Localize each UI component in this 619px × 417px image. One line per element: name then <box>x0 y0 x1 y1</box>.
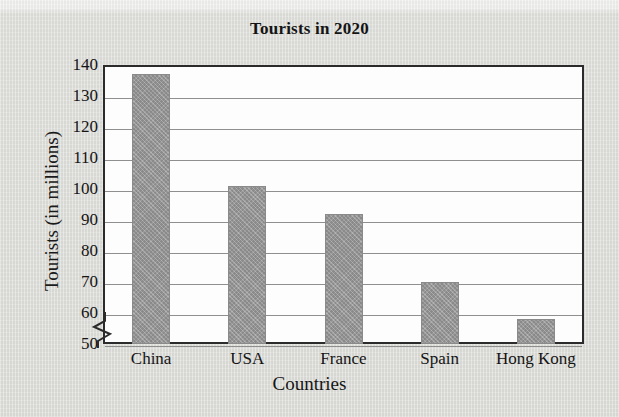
y-axis-tick-label: 110 <box>46 148 98 168</box>
y-axis-tick-labels: 5060708090100110120130140 <box>46 65 98 344</box>
y-axis-tick-label: 70 <box>46 272 98 292</box>
y-axis-tick-label: 80 <box>46 241 98 261</box>
axis-break-zigzag-icon <box>88 312 122 348</box>
x-axis-tick-labels: ChinaUSAFranceSpainHong Kong <box>103 349 584 375</box>
y-axis-tick-label: 130 <box>46 86 98 106</box>
y-axis-tick-label: 90 <box>46 210 98 230</box>
bar <box>132 74 170 344</box>
bar <box>421 282 459 344</box>
x-axis-tick-label: China <box>131 349 172 369</box>
y-axis-tick-label: 120 <box>46 117 98 137</box>
bars-layer <box>103 65 584 344</box>
chart-title: Tourists in 2020 <box>0 19 619 39</box>
x-axis-tick-label: France <box>320 349 366 369</box>
x-axis-tick-label: Spain <box>420 349 459 369</box>
x-axis-title: Countries <box>0 373 619 395</box>
x-axis-tick-label: Hong Kong <box>496 349 576 369</box>
bar <box>325 214 363 344</box>
gridline <box>105 346 582 347</box>
bar <box>517 319 555 344</box>
bar <box>228 186 266 344</box>
y-axis-tick-label: 140 <box>46 55 98 75</box>
chart-page: Tourists in 2020 Tourists (in millions) … <box>0 0 619 417</box>
y-axis-tick-label: 100 <box>46 179 98 199</box>
x-axis-tick-label: USA <box>230 349 264 369</box>
